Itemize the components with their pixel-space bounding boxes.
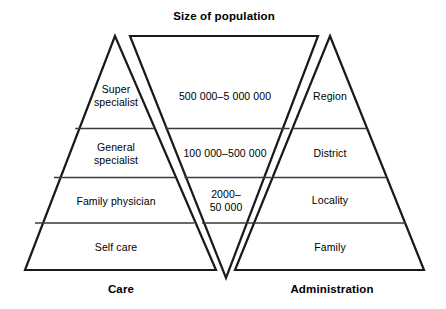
- administration-tier-label-2: District: [314, 147, 347, 160]
- figure-title: Size of population: [173, 10, 275, 23]
- care-tier-label-1: Super specialist: [94, 83, 138, 108]
- care-tier-label-4: Self care: [95, 241, 137, 254]
- care-tier-label-2: General specialist: [94, 141, 138, 166]
- care-caption: Care: [108, 283, 134, 296]
- population-tier-label-1: 500 000–5 000 000: [179, 90, 271, 103]
- administration-caption: Administration: [290, 283, 373, 296]
- population-tier-label-2: 100 000–500 000: [183, 147, 266, 160]
- administration-tier-label-3: Locality: [312, 194, 348, 207]
- population-tier-label-3: 2000– 50 000: [210, 188, 243, 213]
- pyramid-diagram-figure: Size of population Super specialist Gene…: [0, 0, 446, 309]
- administration-tier-label-1: Region: [313, 90, 347, 103]
- care-tier-label-3: Family physician: [76, 195, 155, 208]
- administration-tier-label-4: Family: [314, 241, 346, 254]
